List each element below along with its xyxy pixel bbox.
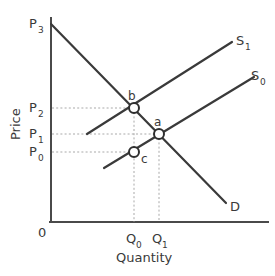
y-tick-label-p2: P 2: [29, 100, 44, 119]
chart-canvas: b a c S 1 S 0 D P 3 P 2 P 1 P 0: [0, 0, 275, 276]
y-tick-label-p1-base: P: [29, 126, 37, 141]
point-marker-c: [129, 147, 139, 157]
curve-label-s0-base: S: [251, 68, 259, 83]
curve-label-s1-base: S: [236, 33, 244, 48]
x-axis-label: Quantity: [116, 250, 172, 265]
point-label-b: b: [128, 89, 136, 103]
y-tick-label-p3-sub: 3: [38, 25, 44, 35]
origin-label: 0: [38, 225, 46, 240]
y-tick-label-p1-sub: 1: [38, 135, 44, 145]
point-label-a: a: [154, 115, 161, 129]
curve-label-s1: S 1: [236, 33, 251, 52]
curve-label-s0: S 0: [251, 68, 266, 87]
y-tick-label-p2-base: P: [29, 100, 37, 115]
y-tick-label-p2-sub: 2: [38, 109, 44, 119]
y-tick-label-p3: P 3: [29, 16, 44, 35]
curve-label-s0-sub: 0: [260, 77, 266, 87]
x-tick-label-q0: Q 0: [126, 231, 142, 250]
x-tick-label-q1-base: Q: [152, 231, 162, 246]
x-tick-label-q0-sub: 0: [136, 240, 142, 250]
demand-curve: [51, 24, 226, 203]
point-marker-a: [154, 129, 164, 139]
supply-demand-diagram: b a c S 1 S 0 D P 3 P 2 P 1 P 0: [0, 0, 275, 276]
point-label-c: c: [141, 152, 148, 166]
curve-label-d-base: D: [230, 199, 240, 214]
point-marker-b: [129, 103, 139, 113]
y-tick-label-p3-base: P: [29, 16, 37, 31]
curve-label-d: D: [230, 199, 240, 214]
x-tick-label-q0-base: Q: [126, 231, 136, 246]
y-axis-label: Price: [8, 108, 23, 140]
y-tick-label-p1: P 1: [29, 126, 44, 145]
curve-label-s1-sub: 1: [245, 42, 251, 52]
y-tick-label-p0-sub: 0: [38, 153, 44, 163]
y-tick-label-p0: P 0: [29, 144, 44, 163]
x-tick-label-q1: Q 1: [152, 231, 168, 250]
y-tick-label-p0-base: P: [29, 144, 37, 159]
x-tick-label-q1-sub: 1: [162, 240, 168, 250]
